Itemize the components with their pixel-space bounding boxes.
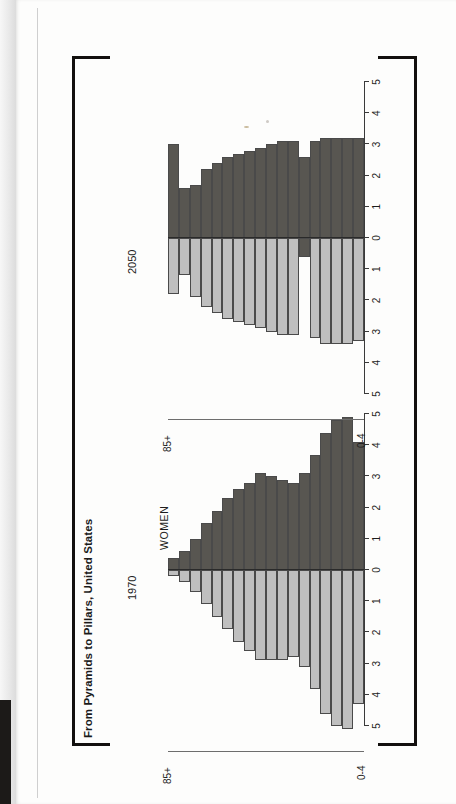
- bar-men: [222, 238, 233, 319]
- age-group-row: [190, 82, 201, 394]
- x-axis-tick: [364, 631, 369, 632]
- age-label-top: 85+: [162, 435, 173, 452]
- figure-frame-top-left: [72, 743, 110, 746]
- bar-women: [310, 455, 321, 570]
- x-axis-tick: [364, 143, 369, 144]
- age-group-row: [222, 82, 233, 394]
- bar-men: [255, 238, 266, 328]
- age-group-row: [255, 82, 266, 394]
- y-axis-1970: [168, 751, 364, 752]
- figure-title: From Pyramids to Pillars, United States: [82, 58, 94, 738]
- bar-women: [353, 442, 364, 570]
- rotated-figure-wrapper: From Pyramids to Pillars, United States …: [16, 0, 456, 804]
- bar-men: [288, 570, 299, 657]
- x-axis-tick-label: 2: [371, 298, 382, 304]
- zero-axis-line: [168, 237, 364, 238]
- bar-men: [244, 238, 255, 325]
- bar-women: [342, 417, 353, 570]
- age-group-row: [299, 414, 310, 726]
- bar-men: [168, 238, 179, 294]
- bar-women: [201, 169, 212, 238]
- bar-women: [222, 157, 233, 238]
- bar-women: [244, 151, 255, 238]
- age-group-row: [222, 414, 233, 726]
- figure-frame-bottom-left: [378, 743, 417, 746]
- x-axis-tick: [364, 112, 369, 113]
- x-axis-tick: [364, 237, 369, 238]
- scan-speckle: [266, 120, 269, 123]
- bar-women: [277, 480, 288, 570]
- age-group-row: [233, 414, 244, 726]
- age-group-row: [342, 414, 353, 726]
- bar-men: [331, 238, 342, 344]
- bar-men: [190, 238, 201, 297]
- x-axis-tick: [364, 299, 369, 300]
- bar-men: [255, 570, 266, 660]
- scan-speckle: [244, 126, 249, 128]
- bar-women: [168, 144, 179, 238]
- age-group-row: [244, 82, 255, 394]
- x-axis-tick-label: 2: [371, 630, 382, 636]
- age-group-row: [310, 82, 321, 394]
- age-group-row: [266, 414, 277, 726]
- age-group-row: [212, 82, 223, 394]
- bar-women: [244, 483, 255, 570]
- figure: From Pyramids to Pillars, United States …: [16, 0, 456, 804]
- panel-1970: 1970 MEN WOMEN 54321012345 85+ 0-4: [124, 414, 402, 726]
- x-axis-tick: [364, 569, 369, 570]
- x-axis-tick-label: 3: [371, 474, 382, 480]
- bar-women: [212, 511, 223, 570]
- age-group-row: [288, 82, 299, 394]
- figure-frame-bottom-right: [378, 56, 417, 59]
- bar-men: [212, 570, 223, 617]
- age-group-row: [233, 82, 244, 394]
- x-axis-tick-label: 4: [371, 110, 382, 116]
- bar-women: [320, 138, 331, 238]
- bar-women: [277, 141, 288, 238]
- panel-2050: 2050 54321012345 85+ 0-4: [124, 82, 402, 394]
- bar-men: [266, 570, 277, 660]
- panel-year-label: 2050: [126, 250, 138, 274]
- bar-men: [331, 570, 342, 726]
- bar-men: [310, 238, 321, 338]
- bar-men: [277, 238, 288, 335]
- age-group-row: [331, 82, 342, 394]
- x-axis-tick: [364, 600, 369, 601]
- bar-women: [342, 138, 353, 238]
- x-axis-tick: [364, 206, 369, 207]
- bar-women: [299, 157, 310, 238]
- age-group-row: [168, 414, 179, 726]
- age-group-row: [255, 414, 266, 726]
- x-axis-tick: [364, 393, 369, 394]
- age-group-row: [299, 82, 310, 394]
- bar-men: [233, 238, 244, 322]
- bar-men: [353, 570, 364, 704]
- bar-men: [288, 238, 299, 335]
- x-axis-tick: [364, 694, 369, 695]
- x-axis-tick-label: 1: [371, 536, 382, 542]
- bar-men: [299, 570, 310, 667]
- age-group-row: [342, 82, 353, 394]
- x-axis-tick-label: 5: [371, 79, 382, 85]
- bar-women: [288, 141, 299, 238]
- x-axis-tick-label: 5: [371, 391, 382, 397]
- bar-men: [179, 570, 190, 582]
- age-group-row: [320, 82, 331, 394]
- x-axis-tick: [364, 175, 369, 176]
- bar-women: [266, 144, 277, 238]
- bar-men: [310, 570, 321, 689]
- panel-year-label: 1970: [126, 576, 138, 600]
- x-axis-tick-label: 1: [371, 598, 382, 604]
- x-axis-tick-label: 1: [371, 204, 382, 210]
- bar-women: [255, 148, 266, 238]
- y-axis-2050: [168, 419, 364, 420]
- scanned-page-sheet: From Pyramids to Pillars, United States …: [16, 0, 456, 804]
- x-axis-tick: [364, 268, 369, 269]
- bar-women: [299, 473, 310, 570]
- x-axis-tick: [364, 413, 369, 414]
- bar-women: [266, 476, 277, 570]
- age-group-row: [201, 82, 212, 394]
- age-group-row: [190, 414, 201, 726]
- x-axis-tick: [364, 362, 369, 363]
- age-label-bottom: 0-4: [356, 766, 367, 780]
